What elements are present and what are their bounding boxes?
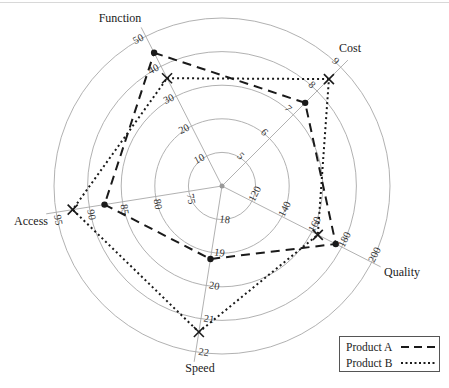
axis-label-cost: Cost bbox=[339, 41, 362, 55]
dotted-line-swatch-icon bbox=[401, 363, 435, 365]
legend-label-product-a: Product A bbox=[346, 341, 392, 353]
legend-item-product-b: Product B bbox=[346, 355, 392, 371]
tick-label: 9 bbox=[330, 55, 341, 66]
tick-label: 8 bbox=[306, 79, 317, 90]
data-point-x-icon bbox=[313, 230, 323, 240]
data-point-x-icon bbox=[194, 327, 204, 337]
tick-label: 6 bbox=[259, 126, 270, 137]
data-point-dot-icon bbox=[151, 50, 157, 56]
tick-label: 22 bbox=[198, 346, 210, 359]
tick-label: 5 bbox=[235, 150, 246, 161]
tick-label: 20 bbox=[208, 279, 220, 292]
center-point bbox=[220, 184, 225, 189]
tick-label: 90 bbox=[85, 209, 98, 221]
axis-label-function: Function bbox=[99, 11, 142, 25]
axis-label-access: Access bbox=[14, 214, 48, 228]
data-point-x-icon bbox=[162, 73, 172, 83]
tick-label: 50 bbox=[131, 32, 145, 47]
tick-label: 200 bbox=[366, 245, 383, 264]
data-point-dot-icon bbox=[101, 201, 107, 207]
tick-label: 20 bbox=[177, 121, 191, 136]
radar-chart: 1020304050567891201401601802001819202122… bbox=[0, 0, 449, 388]
tick-label: 180 bbox=[336, 230, 353, 249]
series-product-a bbox=[105, 53, 336, 259]
legend: Product A Product B bbox=[339, 336, 440, 372]
data-point-dot-icon bbox=[207, 256, 213, 262]
tick-label: 18 bbox=[219, 213, 231, 226]
tick-label: 21 bbox=[203, 313, 215, 326]
legend-item-product-a: Product A bbox=[346, 339, 392, 355]
legend-label-product-b: Product B bbox=[346, 357, 392, 369]
tick-label: 140 bbox=[276, 199, 293, 218]
data-point-dot-icon bbox=[302, 100, 308, 106]
tick-labels: 1020304050567891201401601802001819202122… bbox=[52, 32, 383, 359]
tick-label: 10 bbox=[192, 151, 206, 166]
tick-label: 95 bbox=[52, 214, 65, 226]
data-point-dot-icon bbox=[333, 241, 339, 247]
axis-speed bbox=[194, 186, 222, 362]
tick-label: 7 bbox=[283, 103, 294, 114]
tick-label: 120 bbox=[246, 184, 263, 203]
dashed-line-swatch-icon bbox=[401, 347, 435, 349]
tick-label: 75 bbox=[185, 193, 198, 205]
tick-label: 80 bbox=[152, 198, 165, 210]
data-series bbox=[68, 50, 339, 337]
axis-label-quality: Quality bbox=[384, 265, 420, 279]
axis-label-speed: Speed bbox=[185, 361, 214, 375]
data-point-x-icon bbox=[68, 205, 78, 215]
